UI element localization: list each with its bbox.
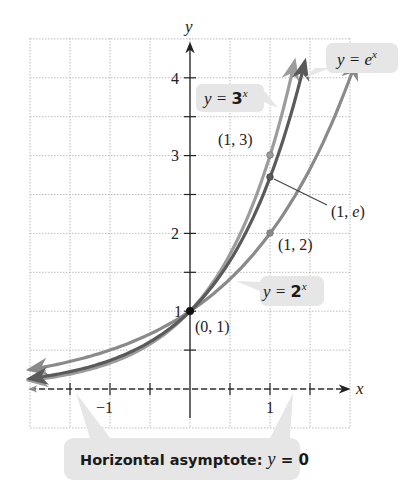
exponential-functions-graph: y x 4 3 2 1 −1 1 (0, 1) (1, 3) (1, e) (1… [0, 0, 409, 493]
y-axis-label: y [183, 17, 193, 36]
point-1-2 [267, 230, 274, 237]
curve-y-2-x [30, 62, 356, 369]
x-tick-neg1: −1 [96, 399, 113, 416]
callout-2-x: y = 2x [236, 276, 324, 306]
label-point-1-2: (1, 2) [278, 236, 313, 254]
y-tick-4: 4 [171, 70, 179, 87]
svg-text:Horizontal asymptote: y = 0: Horizontal asymptote: y = 0 [80, 449, 309, 469]
point-1-e [267, 174, 274, 181]
svg-text:y = ex: y = ex [335, 48, 377, 69]
label-point-0-1: (0, 1) [195, 318, 230, 336]
curves [30, 62, 356, 380]
x-tick-1: 1 [266, 399, 274, 416]
point-0-1 [186, 307, 194, 315]
curve-y-e-x [30, 62, 305, 378]
y-tick-3: 3 [171, 147, 179, 164]
svg-text:y = 2x: y = 2x [261, 280, 307, 301]
y-tick-2: 2 [171, 225, 179, 242]
point-1-3 [267, 152, 274, 159]
label-point-1-3: (1, 3) [218, 131, 253, 149]
svg-text:y = 3x: y = 3x [202, 87, 248, 108]
label-point-1-e: (1, e) [331, 203, 365, 221]
callout-e-x: y = ex [305, 43, 398, 78]
leader-1-e [274, 179, 327, 205]
x-axis-label: x [355, 379, 364, 398]
callout-3-x: y = 3x [196, 84, 278, 112]
